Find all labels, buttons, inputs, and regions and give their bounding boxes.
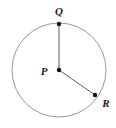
geometry-canvas: P Q R [0,0,116,128]
point-label-p: P [41,65,48,77]
point-marker-p [57,68,61,72]
point-marker-r [93,93,97,97]
circle-diagram-figure: P Q R [0,0,116,128]
point-label-q: Q [55,5,63,17]
point-label-r: R [101,97,109,109]
point-marker-q [57,22,61,26]
radius-pr-line [59,70,95,95]
